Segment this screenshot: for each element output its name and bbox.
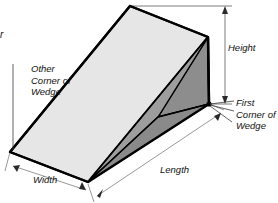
width-extension-left: [5, 152, 10, 171]
first-corner-label: First Corner of Wedge: [236, 97, 276, 132]
wedge-diagram-canvas: Height Length Width First Corner of Wedg…: [0, 0, 278, 203]
length-arrow-end: [214, 113, 221, 121]
width-label: Width: [33, 174, 57, 185]
height-label: Height: [228, 42, 255, 53]
length-label: Length: [160, 164, 189, 175]
wedge-edge-vertical-right: [208, 37, 209, 104]
height-arrow-up: [222, 6, 228, 14]
width-arrow-left: [13, 165, 20, 172]
length-arrow-start: [97, 189, 103, 198]
width-arrow-right: [79, 182, 86, 190]
height-arrow-down: [222, 96, 228, 104]
length-extension-left: [88, 184, 94, 202]
clipped-text-fragment: r: [0, 29, 3, 40]
other-corner-label: Other Corner of Wedge: [31, 63, 71, 98]
first-corner-leader-2: [210, 105, 234, 111]
